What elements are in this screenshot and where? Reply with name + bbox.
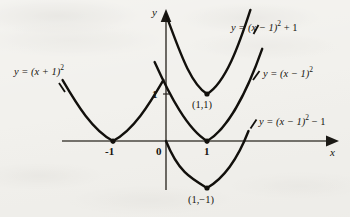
- x-axis-arrowhead: [326, 136, 339, 147]
- curve-label-x-minus-1-squared-plus-1: y = (x − 1)2 + 1: [231, 20, 297, 33]
- x-tick-label-zero: 0: [156, 146, 162, 157]
- vertex-dot-one-one: [204, 91, 209, 96]
- curve-label-left-prefix: y = (x + 1): [14, 66, 60, 77]
- x-tick-label-minus-one: -1: [105, 146, 114, 157]
- curve-label-top-right-prefix: y = (x − 1): [231, 22, 277, 33]
- y-axis-label: y: [152, 7, 157, 18]
- vertex-dot-one-minus-one: [204, 185, 209, 190]
- curve-label-top-right-suffix: + 1: [281, 22, 297, 33]
- curve-label-x-minus-1-squared: y = (x − 1)2: [263, 66, 313, 79]
- x-axis-label: x: [330, 147, 335, 158]
- curve-label-low-right-prefix: y = (x − 1): [259, 116, 305, 127]
- leader-low-right: [251, 120, 257, 129]
- figure-canvas: y x -1 0 1 1 y = (x + 1)2 y = (x − 1)2 +…: [0, 0, 350, 217]
- y-tick-label-one: 1: [152, 89, 158, 100]
- point-label-one-one: (1,1): [192, 100, 212, 111]
- curve-label-mid-right-exponent: 2: [309, 65, 313, 74]
- curve-label-x-plus-1-squared: y = (x + 1)2: [14, 64, 64, 77]
- graph-plot: [0, 0, 350, 217]
- curve-label-left-exponent: 2: [60, 63, 64, 72]
- curve-label-mid-right-prefix: y = (x − 1): [263, 68, 309, 79]
- point-label-one-minus-one: (1,−1): [188, 195, 214, 206]
- vertex-dot-minus-one-zero: [110, 138, 115, 143]
- curve-label-low-right-suffix: − 1: [309, 116, 325, 127]
- vertex-dot-one-zero: [204, 138, 209, 143]
- curve-label-x-minus-1-squared-minus-1: y = (x − 1)2 − 1: [259, 114, 325, 127]
- x-tick-label-one: 1: [204, 146, 210, 157]
- curve-x-plus-1-squared: [63, 80, 164, 141]
